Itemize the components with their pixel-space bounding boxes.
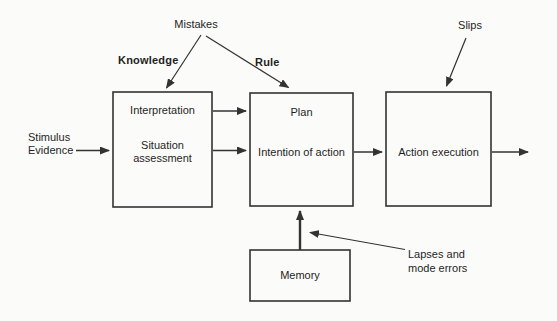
rule-label: Rule: [255, 56, 280, 69]
interpretation-label: Interpretation: [113, 104, 212, 117]
action-execution-label: Action execution: [386, 146, 491, 159]
assessment-line: assessment: [133, 152, 192, 164]
arrow-slips-to-execution: [447, 38, 467, 86]
arrow-lapses-pointer: [310, 233, 405, 250]
diagram-canvas: Mistakes Knowledge Rule Slips StimulusEv…: [0, 0, 557, 321]
stimulus-evidence-label: StimulusEvidence: [28, 131, 73, 157]
knowledge-label: Knowledge: [118, 54, 178, 67]
intention-of-action-label: Intention of action: [250, 146, 353, 159]
slips-label: Slips: [452, 19, 488, 32]
situation-line: Situation: [141, 139, 184, 151]
memory-label: Memory: [250, 269, 350, 282]
lapses-label: Lapses andmode errors: [408, 247, 467, 275]
mistakes-label: Mistakes: [160, 18, 232, 31]
situation-assessment-label: Situationassessment: [113, 139, 212, 165]
stimulus-line: Stimulus: [28, 131, 70, 143]
lapses-line2: mode errors: [408, 262, 467, 274]
plan-label: Plan: [250, 106, 353, 119]
evidence-line: Evidence: [28, 144, 73, 156]
lapses-line1: Lapses and: [408, 248, 465, 260]
